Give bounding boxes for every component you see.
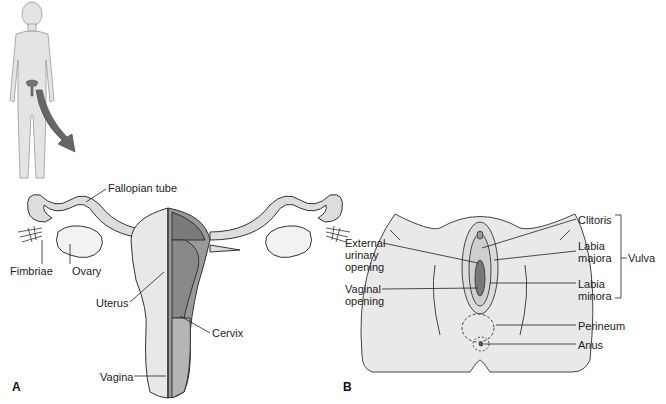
label-vulva: Vulva bbox=[628, 252, 655, 264]
label-fallopian-tube: Fallopian tube bbox=[108, 182, 177, 194]
label-ovary: Ovary bbox=[72, 265, 101, 277]
label-clitoris: Clitoris bbox=[578, 214, 612, 226]
panel-letter-b: B bbox=[343, 380, 352, 394]
uterus-diagram bbox=[18, 195, 350, 398]
label-external-urinary-opening: External urinary opening bbox=[345, 237, 385, 273]
panel-letter-a: A bbox=[12, 380, 21, 394]
label-anus: Anus bbox=[578, 339, 603, 351]
label-vaginal-opening: Vaginal opening bbox=[345, 283, 384, 307]
label-uterus: Uterus bbox=[96, 297, 128, 309]
label-fimbriae: Fimbriae bbox=[10, 265, 53, 277]
label-labia-majora: Labia majora bbox=[578, 240, 612, 264]
label-vagina: Vagina bbox=[100, 371, 133, 383]
vulva-diagram bbox=[361, 214, 593, 372]
label-perineum: Perineum bbox=[578, 320, 625, 332]
label-labia-minora: Labia minora bbox=[578, 278, 612, 302]
label-cervix: Cervix bbox=[212, 327, 243, 339]
anatomy-diagram bbox=[0, 0, 666, 404]
